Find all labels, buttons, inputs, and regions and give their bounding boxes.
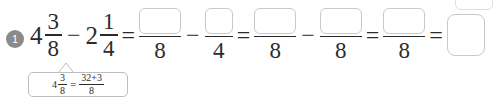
fraction-bar: [139, 36, 181, 38]
blank1-denominator: 8: [151, 39, 169, 62]
mixed-number-term-2: 2 1 4: [86, 10, 118, 60]
answer-box-numerator-4[interactable]: [320, 8, 362, 34]
blank-fraction-1: 8: [139, 8, 181, 63]
blank-fraction-4: 8: [320, 8, 362, 63]
hint-denominator: 8: [58, 86, 67, 96]
worksheet-problem: 1 4 3 8 − 2 1 4 = 8 −: [0, 0, 501, 100]
answer-box-numerator-2[interactable]: [205, 8, 233, 34]
equals-sign-1: =: [118, 23, 140, 47]
minus-operator-3: −: [296, 23, 320, 47]
term2-fraction: 1 4: [100, 10, 118, 60]
hint-callout: 4 3 8 = 32+3 8: [28, 72, 128, 97]
minus-operator-1: −: [62, 23, 86, 47]
blank-fraction-5: 8: [383, 8, 425, 63]
hint-result-fraction: 32+3 8: [79, 73, 104, 96]
hint-expression: 4 3 8 = 32+3 8: [52, 73, 104, 96]
blank-fraction-3: 8: [254, 8, 296, 63]
blank4-denominator: 8: [332, 39, 350, 62]
term1-numerator: 3: [45, 10, 63, 33]
term1-whole-number: 4: [30, 23, 45, 48]
term2-numerator: 1: [100, 10, 118, 33]
hint-mixed-fraction: 3 8: [58, 73, 67, 96]
equals-sign-2: =: [233, 23, 255, 47]
answer-box-numerator-3[interactable]: [254, 8, 296, 34]
blank3-denominator: 8: [266, 39, 284, 62]
hint-result-numerator: 32+3: [79, 73, 104, 83]
equals-sign-3: =: [362, 23, 384, 47]
blank2-denominator: 4: [210, 39, 228, 62]
fraction-bar: [205, 36, 233, 38]
fraction-bar: [320, 36, 362, 38]
fraction-bar: [383, 36, 425, 38]
problem-number-badge: 1: [6, 30, 24, 48]
answer-box-numerator-1[interactable]: [139, 8, 181, 34]
hint-result-denominator: 8: [87, 86, 96, 96]
blank-fraction-2: 4: [205, 8, 233, 63]
hint-equals-sign: =: [67, 79, 79, 90]
fraction-bar: [254, 36, 296, 38]
equation-row: 4 3 8 − 2 1 4 = 8 −: [30, 0, 485, 70]
minus-operator-2: −: [181, 23, 205, 47]
term1-fraction: 3 8: [45, 10, 63, 60]
term2-whole-number: 2: [86, 23, 101, 48]
blank5-denominator: 8: [396, 39, 414, 62]
term1-denominator: 8: [45, 37, 63, 60]
term2-denominator: 4: [100, 37, 118, 60]
hint-numerator: 3: [58, 73, 67, 83]
mixed-number-term-1: 4 3 8: [30, 10, 62, 60]
answer-box-numerator-5[interactable]: [383, 8, 425, 34]
equals-sign-4: =: [425, 23, 447, 47]
answer-box-final[interactable]: [447, 14, 485, 56]
